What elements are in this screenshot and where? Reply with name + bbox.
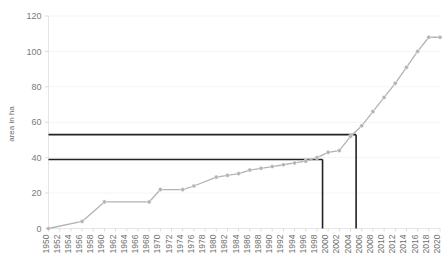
x-axis-tick-label: 1952 bbox=[52, 234, 62, 253]
data-point-marker bbox=[259, 166, 263, 170]
data-point-marker bbox=[80, 219, 84, 223]
y-axis-tick-label: 100 bbox=[26, 47, 41, 57]
data-point-marker bbox=[371, 110, 375, 114]
data-point-marker bbox=[270, 164, 274, 168]
x-axis-tick-label: 1990 bbox=[264, 234, 274, 253]
x-axis-tick-label: 1992 bbox=[275, 234, 285, 253]
data-point-marker bbox=[360, 124, 364, 128]
x-axis-tick-label: 2018 bbox=[421, 234, 431, 253]
y-axis-tick-label: 80 bbox=[31, 82, 41, 92]
x-axis-tick-label: 2004 bbox=[343, 234, 353, 253]
x-axis-tick-label: 2010 bbox=[376, 234, 386, 253]
data-point-marker bbox=[46, 226, 50, 230]
x-axis-tick-label: 2016 bbox=[410, 234, 420, 253]
y-axis-tick-label: 60 bbox=[31, 117, 41, 127]
x-axis-tick-label: 2020 bbox=[432, 234, 442, 253]
x-axis-tick-label: 1982 bbox=[219, 234, 229, 253]
data-point-marker bbox=[304, 159, 308, 163]
data-point-marker bbox=[281, 163, 285, 167]
data-point-marker bbox=[438, 35, 442, 39]
data-point-marker bbox=[225, 173, 229, 177]
x-axis-tick-label: 2012 bbox=[387, 234, 397, 253]
data-point-marker bbox=[315, 156, 319, 160]
x-axis-tick-label: 1996 bbox=[298, 234, 308, 253]
data-point-marker bbox=[248, 168, 252, 172]
data-point-marker bbox=[382, 95, 386, 99]
x-axis-tick-label: 2008 bbox=[365, 234, 375, 253]
x-axis-tick-label: 1960 bbox=[96, 234, 106, 253]
y-axis-tick-label: 120 bbox=[26, 11, 41, 21]
x-axis-tick-label: 1972 bbox=[164, 234, 174, 253]
data-point-marker bbox=[158, 187, 162, 191]
data-point-marker bbox=[348, 134, 352, 138]
chart-container: 020406080100120 195019521954195619581960… bbox=[0, 0, 447, 274]
x-axis-tick-label: 1962 bbox=[108, 234, 118, 253]
x-axis-tick-label: 1978 bbox=[197, 234, 207, 253]
data-point-marker bbox=[147, 200, 151, 204]
x-axis-tick-label: 1994 bbox=[287, 234, 297, 253]
x-axis-tick-label: 1988 bbox=[253, 234, 263, 253]
x-axis-tick-label: 1984 bbox=[231, 234, 241, 253]
chart-background bbox=[0, 0, 447, 274]
data-point-marker bbox=[427, 35, 431, 39]
data-point-marker bbox=[404, 65, 408, 69]
x-axis-tick-label: 1964 bbox=[119, 234, 129, 253]
x-axis-tick-label: 1986 bbox=[242, 234, 252, 253]
x-axis-tick-label: 2002 bbox=[331, 234, 341, 253]
data-point-marker bbox=[337, 148, 341, 152]
y-axis-tick-label: 0 bbox=[36, 224, 41, 234]
x-axis-tick-label: 2000 bbox=[320, 234, 330, 253]
data-point-marker bbox=[214, 175, 218, 179]
x-axis-tick-label: 1968 bbox=[141, 234, 151, 253]
data-point-marker bbox=[181, 187, 185, 191]
line-chart: 020406080100120 195019521954195619581960… bbox=[0, 0, 447, 274]
x-axis-tick-label: 1950 bbox=[41, 234, 51, 253]
data-point-marker bbox=[102, 200, 106, 204]
data-point-marker bbox=[292, 161, 296, 165]
y-axis-tick-label: 40 bbox=[31, 153, 41, 163]
x-axis-tick-label: 1970 bbox=[152, 234, 162, 253]
x-axis-tick-label: 1966 bbox=[130, 234, 140, 253]
x-axis-tick-label: 1998 bbox=[309, 234, 319, 253]
data-point-marker bbox=[237, 172, 241, 176]
x-axis-tick-label: 1956 bbox=[74, 234, 84, 253]
y-axis-title: area in ha bbox=[7, 106, 16, 142]
data-point-marker bbox=[416, 49, 420, 53]
data-point-marker bbox=[192, 184, 196, 188]
x-axis-tick-label: 2014 bbox=[398, 234, 408, 253]
x-axis-tick-label: 1974 bbox=[175, 234, 185, 253]
x-axis-tick-label: 1980 bbox=[208, 234, 218, 253]
x-axis-tick-label: 1954 bbox=[63, 234, 73, 253]
data-point-marker bbox=[393, 81, 397, 85]
y-axis-tick-label: 20 bbox=[31, 188, 41, 198]
x-axis-tick-label: 2006 bbox=[354, 234, 364, 253]
x-axis-tick-label: 1976 bbox=[186, 234, 196, 253]
x-axis-tick-label: 1958 bbox=[85, 234, 95, 253]
data-point-marker bbox=[326, 150, 330, 154]
